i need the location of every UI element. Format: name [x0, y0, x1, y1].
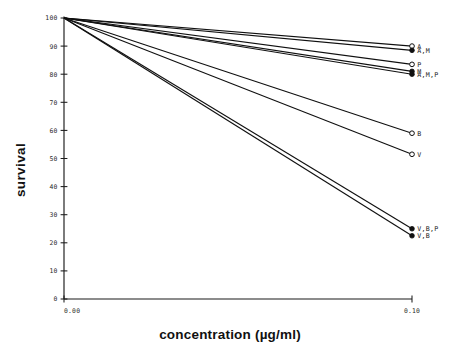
series-label: A,M,P	[417, 71, 438, 79]
series-endpoint-marker	[410, 48, 415, 53]
y-tick-label: 20	[49, 239, 57, 247]
y-tick-label: 30	[49, 211, 57, 219]
chart-canvas: 01020304050607080901000.000.10AA,MPMA,M,…	[0, 0, 452, 353]
series-endpoint-marker	[410, 131, 415, 136]
x-axis-title: concentration (µg/ml)	[159, 327, 301, 342]
series-v: V	[64, 18, 421, 159]
series-endpoint-marker	[410, 72, 415, 77]
series-line	[64, 18, 412, 50]
series-line	[64, 18, 412, 236]
series-label: A,M	[417, 47, 430, 55]
series-label: V	[417, 151, 421, 159]
series-line	[64, 18, 412, 229]
axes-group: 01020304050607080901000.000.10	[45, 14, 420, 314]
series-group: AA,MPMA,M,PBVV,B,PV,B	[64, 18, 439, 240]
y-tick-label: 0	[53, 295, 57, 303]
y-tick-label: 70	[49, 99, 57, 107]
series-line	[64, 18, 412, 154]
y-axis-title: survival	[13, 143, 28, 197]
series-line	[64, 18, 412, 74]
x-tick-label: 0.10	[404, 307, 420, 315]
series-a-m-p: A,M,P	[64, 18, 439, 79]
series-label: B	[417, 130, 421, 138]
series-line	[64, 18, 412, 46]
y-tick-label: 50	[49, 155, 57, 163]
series-endpoint-marker	[410, 233, 415, 238]
y-tick-label: 90	[49, 43, 57, 51]
y-tick-label: 40	[49, 183, 57, 191]
y-tick-label: 10	[49, 267, 57, 275]
series-p: P	[64, 18, 421, 69]
survival-concentration-chart: 01020304050607080901000.000.10AA,MPMA,M,…	[0, 0, 452, 353]
series-endpoint-marker	[410, 152, 415, 157]
series-v-b-p: V,B,P	[64, 18, 439, 233]
x-tick-label: 0.00	[64, 307, 80, 315]
y-tick-label: 80	[49, 71, 57, 79]
series-endpoint-marker	[410, 226, 415, 231]
series-endpoint-marker	[410, 62, 415, 67]
series-line	[64, 18, 412, 133]
y-tick-label: 60	[49, 127, 57, 135]
series-line	[64, 18, 412, 64]
series-b: B	[64, 18, 421, 138]
series-label: V,B	[417, 232, 430, 240]
y-tick-label: 100	[45, 14, 57, 22]
